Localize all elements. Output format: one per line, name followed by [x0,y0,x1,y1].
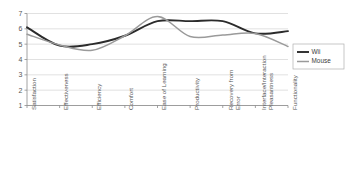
x-axis-label-line: Pleasantness [267,55,274,110]
x-axis-label: Recovery fromError [227,69,241,109]
x-axis-label-line: Satisfaction [30,78,37,110]
x-axis-label: Interface/InteractionPleasantness [260,55,274,110]
y-axis-tick-label: 4 [19,56,23,63]
legend-label-mouse: Mouse [312,57,332,64]
chart-container: 1234567 WiiMouse SatisfactionEffectivene… [0,0,352,179]
x-axis-label: Productivity [193,78,200,110]
x-axis-label: Functionality [291,75,298,110]
x-axis-label-line: Efficiency [95,83,102,109]
chart-legend: WiiMouse [293,44,344,69]
y-axis-tick-label: 7 [19,10,23,17]
line-chart: 1234567 WiiMouse [0,0,352,179]
y-axis-tick-label: 3 [19,71,23,78]
x-axis-label: Effectiveness [62,73,69,110]
x-axis-label-line: Interface/Interaction [260,55,267,110]
y-axis-tick-label: 5 [19,41,23,48]
x-axis-label-line: Ease of Learning [160,63,167,110]
y-axis-tick-label: 2 [19,87,23,94]
x-axis-label-line: Effectiveness [62,73,69,110]
data-series [27,17,288,51]
x-axis-label-line: Productivity [193,78,200,110]
y-axis-tick-label: 1 [19,102,23,109]
x-axis-label-line: Functionality [291,75,298,110]
y-axis: 1234567 [19,10,27,109]
legend-label-wii: Wii [312,48,321,55]
x-axis-label: Efficiency [95,83,102,109]
x-axis-label: Satisfaction [30,78,37,110]
y-axis-tick-label: 6 [19,25,23,32]
x-axis-label: Comfort [127,87,134,109]
x-axis-label-line: Comfort [127,87,134,109]
x-axis-label-line: Error [234,69,241,109]
x-axis-label: Ease of Learning [160,63,167,110]
